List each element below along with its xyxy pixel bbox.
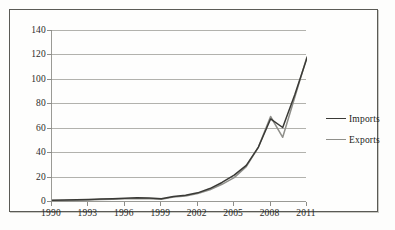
y-tick-label: 80 bbox=[14, 98, 46, 108]
x-tick bbox=[306, 202, 307, 206]
x-tick-label: 1999 bbox=[140, 208, 180, 218]
y-tick-label: 140 bbox=[14, 25, 46, 35]
chart-figure: 020406080100120140 199019931996199920022… bbox=[0, 0, 395, 230]
x-tick-label: 1996 bbox=[104, 208, 144, 218]
x-tick-label: 2005 bbox=[213, 208, 253, 218]
x-tick bbox=[197, 202, 198, 206]
chart-frame: 020406080100120140 199019931996199920022… bbox=[9, 9, 378, 212]
series-line-imports bbox=[52, 58, 307, 200]
legend-item-imports[interactable]: Imports bbox=[326, 108, 395, 129]
x-tick-label: 2011 bbox=[286, 208, 326, 218]
legend-item-exports[interactable]: Exports bbox=[326, 129, 395, 150]
x-tick-label: 2008 bbox=[250, 208, 290, 218]
x-tick-label: 1993 bbox=[67, 208, 107, 218]
legend-label: Exports bbox=[349, 135, 380, 145]
y-tick-label: 20 bbox=[14, 172, 46, 182]
y-tick-label: 40 bbox=[14, 147, 46, 157]
x-tick bbox=[87, 202, 88, 206]
legend-label: Imports bbox=[349, 114, 380, 124]
x-tick bbox=[160, 202, 161, 206]
x-tick bbox=[124, 202, 125, 206]
chart-legend: ImportsExports bbox=[326, 108, 395, 150]
y-tick-label: 0 bbox=[14, 196, 46, 206]
x-tick bbox=[270, 202, 271, 206]
series-line-exports bbox=[52, 57, 307, 201]
y-tick-label: 120 bbox=[14, 49, 46, 59]
data-series-plot bbox=[52, 31, 307, 202]
x-tick bbox=[51, 202, 52, 206]
y-axis-labels: 020406080100120140 bbox=[10, 10, 46, 230]
x-tick-label: 1990 bbox=[31, 208, 71, 218]
legend-swatch-imports bbox=[326, 118, 346, 119]
legend-swatch-exports bbox=[326, 139, 346, 140]
x-tick bbox=[233, 202, 234, 206]
y-tick-label: 100 bbox=[14, 74, 46, 84]
y-tick-label: 60 bbox=[14, 123, 46, 133]
x-tick-label: 2002 bbox=[177, 208, 217, 218]
